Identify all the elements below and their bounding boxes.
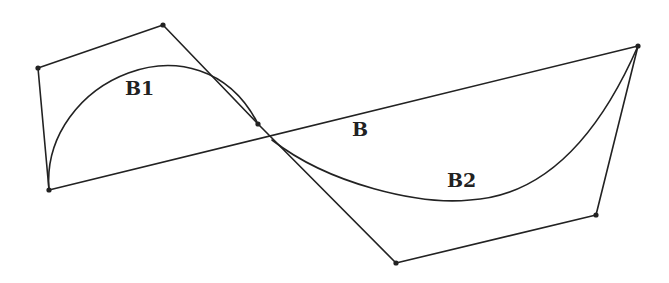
control-polygon-b2	[258, 46, 638, 263]
label-b2: B2	[447, 171, 476, 190]
control-point-p0	[46, 187, 51, 192]
control-point-p2	[160, 22, 165, 27]
bezier-diagram: B1 B B2	[0, 0, 669, 283]
chord-b	[49, 46, 638, 190]
control-point-p4	[393, 260, 398, 265]
control-point-p5	[593, 212, 598, 217]
label-b1: B1	[125, 79, 154, 98]
control-point-p6	[635, 43, 640, 48]
control-point-dots	[35, 22, 640, 265]
control-point-p1	[35, 65, 40, 70]
diagram-graphics	[0, 0, 669, 283]
label-b: B	[352, 120, 368, 139]
control-point-p3	[255, 121, 260, 126]
